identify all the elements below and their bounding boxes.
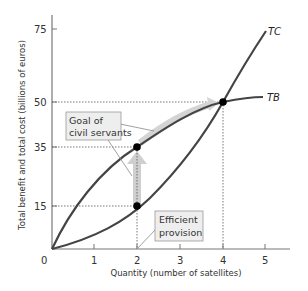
x-tick-label-1: 1	[91, 255, 97, 266]
svg-text:Goal of: Goal of	[69, 115, 103, 126]
x-tick-label-5: 5	[262, 255, 268, 266]
tc-label: TC	[268, 26, 281, 37]
point-efficient	[219, 98, 227, 106]
shift-arrow-vertical	[127, 150, 147, 206]
efficient-leader-line	[137, 230, 155, 249]
goal-annotation-box: Goal of civil servants	[66, 112, 132, 140]
x-tick-label-2: 2	[134, 255, 140, 266]
chart: TC TB Goal of civil servants Efficient p…	[0, 0, 308, 291]
x-tick-label-4: 4	[220, 255, 226, 266]
svg-text:Efficient: Efficient	[159, 214, 198, 225]
y-tick-label-50: 50	[34, 97, 47, 108]
tb-label: TB	[267, 92, 280, 103]
goal-leader-line-2	[108, 140, 132, 176]
efficient-annotation-box: Efficient provision	[155, 211, 203, 241]
svg-text:civil servants: civil servants	[69, 127, 132, 138]
point-goal	[133, 143, 141, 151]
svg-text:provision: provision	[159, 227, 202, 238]
x-axis-label: Quantity (number of satellites)	[110, 268, 241, 278]
y-tick-label-35: 35	[34, 142, 47, 153]
y-tick-label-75: 75	[34, 24, 47, 35]
x-tick-label-0: 0	[41, 255, 47, 266]
x-tick-label-3: 3	[177, 255, 183, 266]
point-cost-at-2	[133, 202, 141, 210]
y-axis-label: Total benefit and total cost (billions o…	[17, 40, 27, 231]
y-tick-label-15: 15	[34, 201, 47, 212]
